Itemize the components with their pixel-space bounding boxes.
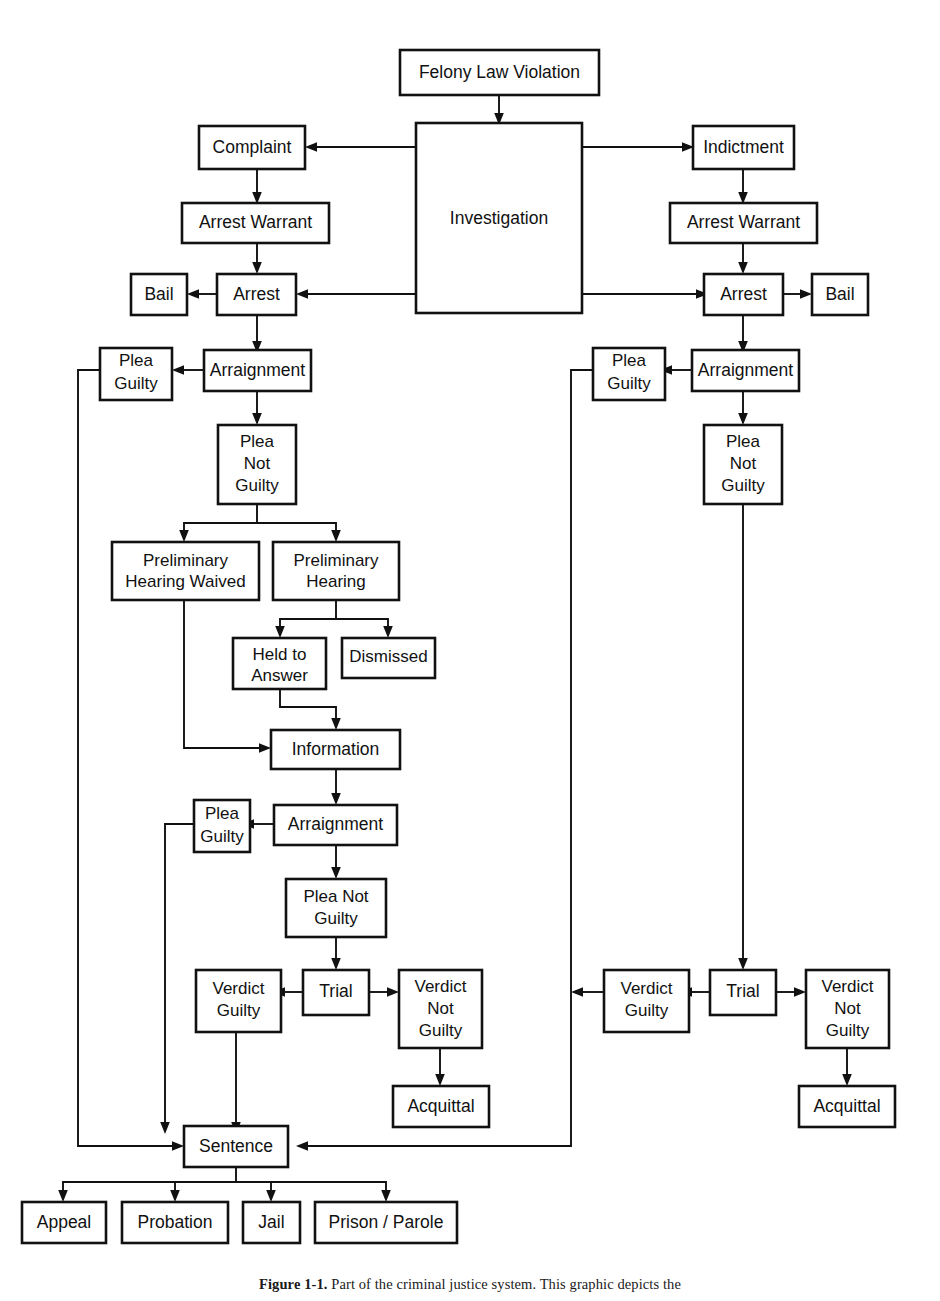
node-prison-parole[interactable]: Prison / Parole — [315, 1202, 457, 1243]
arrowhead-arraignment-to-plea-not-guilty-information — [331, 867, 341, 879]
node-preliminary-hearing-waived[interactable]: Preliminary Hearing Waived — [112, 542, 259, 600]
arrowhead-sentence-to-prison-parole — [381, 1190, 391, 1202]
node-arraignment-information[interactable]: Arraignment — [274, 805, 397, 845]
arrowhead-arrest-to-bail-left — [187, 289, 199, 299]
node-label-held-to-answer-line2: Answer — [251, 666, 308, 685]
node-label-investigation: Investigation — [450, 208, 548, 228]
node-acquittal-left[interactable]: Acquittal — [393, 1086, 489, 1127]
node-label-arrest-warrant-right: Arrest Warrant — [687, 212, 800, 232]
node-acquittal-right[interactable]: Acquittal — [799, 1086, 895, 1127]
figure-caption-label: Figure 1-1. — [259, 1276, 328, 1292]
node-arrest-right[interactable]: Arrest — [704, 274, 783, 315]
node-label-verdict-not-guilty-left-line3: Guilty — [419, 1021, 463, 1040]
criminal-justice-flowchart: Felony Law Violation Investigation Compl… — [0, 0, 940, 1301]
node-arraignment-right[interactable]: Arraignment — [692, 350, 799, 391]
arrowhead-plea-not-guilty-to-trial-left — [331, 958, 341, 970]
arrowhead-trial-to-verdict-not-guilty-right — [794, 987, 806, 997]
node-label-prelim-waived-line2: Hearing Waived — [125, 572, 245, 591]
edge-sentence-to-appeal — [63, 1167, 236, 1194]
node-arrest-warrant-right[interactable]: Arrest Warrant — [670, 203, 817, 243]
node-label-appeal: Appeal — [37, 1212, 92, 1232]
node-appeal[interactable]: Appeal — [22, 1202, 106, 1243]
node-label-sentence: Sentence — [199, 1136, 273, 1156]
node-plea-not-guilty-left[interactable]: Plea Not Guilty — [218, 425, 296, 504]
node-arrest-warrant-left[interactable]: Arrest Warrant — [182, 203, 329, 243]
node-jail[interactable]: Jail — [243, 1202, 300, 1243]
node-label-plea-not-guilty-information-line1: Plea Not — [303, 887, 368, 906]
arrowhead-arrest-to-bail-right — [800, 289, 812, 299]
edge-plea-guilty-information-to-sentence — [165, 824, 194, 1126]
node-label-plea-not-guilty-information-line2: Guilty — [314, 909, 358, 928]
node-label-arraignment-right: Arraignment — [698, 360, 793, 380]
node-label-indictment: Indictment — [703, 137, 784, 157]
node-plea-guilty-left[interactable]: Plea Guilty — [100, 348, 172, 400]
arrowhead-arraignment-to-plea-not-guilty-right — [738, 413, 748, 425]
arrowhead-arrest-warrant-to-arrest-left — [252, 262, 262, 274]
arrowhead-prelim-waived-to-information — [259, 743, 271, 753]
node-label-bail-right: Bail — [825, 284, 854, 304]
node-label-prison-parole: Prison / Parole — [329, 1212, 444, 1232]
node-verdict-not-guilty-left[interactable]: Verdict Not Guilty — [399, 970, 482, 1048]
arrowhead-information-to-arraignment — [331, 793, 341, 805]
arrowhead-investigation-to-arrest-left — [296, 289, 308, 299]
figure-caption: Figure 1-1. Part of the criminal justice… — [0, 1276, 940, 1293]
node-arrest-left[interactable]: Arrest — [217, 274, 296, 315]
node-label-bail-left: Bail — [144, 284, 173, 304]
node-dismissed[interactable]: Dismissed — [342, 638, 435, 678]
edge-plea-not-guilty-to-prelim-waived — [184, 504, 257, 534]
node-label-trial-left: Trial — [319, 981, 352, 1001]
node-plea-not-guilty-information[interactable]: Plea Not Guilty — [286, 879, 386, 937]
node-bail-right[interactable]: Bail — [812, 274, 868, 315]
node-label-arrest-left: Arrest — [233, 284, 280, 304]
node-trial-right[interactable]: Trial — [710, 970, 776, 1015]
node-label-verdict-not-guilty-right-line1: Verdict — [822, 977, 874, 996]
node-sentence[interactable]: Sentence — [184, 1126, 288, 1167]
node-label-verdict-not-guilty-left-line2: Not — [427, 999, 454, 1018]
node-label-trial-right: Trial — [726, 981, 759, 1001]
node-verdict-guilty-left[interactable]: Verdict Guilty — [196, 970, 281, 1032]
edge-plea-guilty-left-to-sentence — [78, 370, 176, 1146]
node-arraignment-left[interactable]: Arraignment — [204, 350, 311, 391]
arrowhead-prelim-hearing-to-held-to-answer — [275, 626, 285, 638]
arrowhead-plea-not-guilty-right-to-trial — [738, 958, 748, 970]
node-investigation[interactable]: Investigation — [416, 123, 582, 313]
edge-prelim-hearing-to-dismissed — [336, 619, 388, 630]
node-layer: Felony Law Violation Investigation Compl… — [22, 50, 895, 1243]
node-trial-left[interactable]: Trial — [303, 970, 369, 1015]
arrowhead-plea-guilty-information-to-sentence — [160, 1122, 170, 1134]
node-held-to-answer[interactable]: Held to Answer — [233, 638, 326, 689]
node-plea-guilty-information[interactable]: Plea Guilty — [194, 800, 250, 852]
node-preliminary-hearing[interactable]: Preliminary Hearing — [273, 542, 399, 600]
arrowhead-arraignment-to-plea-not-guilty-left — [252, 413, 262, 425]
arrowhead-verdict-guilty-right-to-sentence-rail — [571, 987, 583, 997]
arrowhead-plea-not-guilty-to-prelim-waived — [179, 530, 189, 542]
arrowhead-verdict-not-guilty-left-to-acquittal — [435, 1074, 445, 1086]
node-indictment[interactable]: Indictment — [693, 126, 794, 169]
node-label-arraignment-information: Arraignment — [288, 814, 383, 834]
figure-caption-text: Part of the criminal justice system. Thi… — [331, 1276, 681, 1292]
node-verdict-guilty-right[interactable]: Verdict Guilty — [604, 970, 689, 1032]
node-label-verdict-guilty-right-line2: Guilty — [625, 1001, 669, 1020]
node-verdict-not-guilty-right[interactable]: Verdict Not Guilty — [806, 970, 889, 1048]
arrowhead-sentence-to-probation — [170, 1190, 180, 1202]
node-plea-guilty-right[interactable]: Plea Guilty — [593, 348, 665, 400]
arrowhead-sentence-to-jail — [266, 1190, 276, 1202]
node-plea-not-guilty-right[interactable]: Plea Not Guilty — [704, 425, 782, 504]
node-information[interactable]: Information — [271, 730, 400, 769]
node-label-plea-not-guilty-left-line2: Not — [244, 454, 271, 473]
node-probation[interactable]: Probation — [122, 1202, 228, 1243]
node-label-felony-law-violation: Felony Law Violation — [419, 62, 580, 82]
node-label-arraignment-left: Arraignment — [210, 360, 305, 380]
node-label-plea-guilty-right-line2: Guilty — [607, 374, 651, 393]
node-bail-left[interactable]: Bail — [131, 274, 187, 315]
node-label-plea-guilty-left-line2: Guilty — [114, 374, 158, 393]
arrowhead-plea-not-guilty-to-prelim-hearing — [331, 530, 341, 542]
node-label-verdict-not-guilty-left-line1: Verdict — [415, 977, 467, 996]
node-label-plea-guilty-left-line1: Plea — [119, 351, 154, 370]
node-label-plea-not-guilty-left-line1: Plea — [240, 432, 275, 451]
arrowhead-sentence-to-appeal — [58, 1190, 68, 1202]
node-complaint[interactable]: Complaint — [199, 126, 305, 169]
node-label-verdict-not-guilty-right-line2: Not — [834, 999, 861, 1018]
arrowhead-arrest-warrant-to-arrest-right — [738, 262, 748, 274]
node-felony-law-violation[interactable]: Felony Law Violation — [400, 50, 599, 95]
